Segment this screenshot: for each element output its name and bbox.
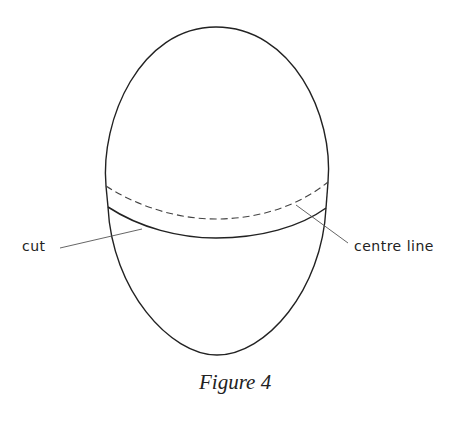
egg-diagram [0, 0, 476, 423]
centre-line [106, 182, 328, 219]
figure-caption: Figure 4 [199, 370, 271, 395]
cut-leader-line [60, 229, 142, 248]
egg-band-right [326, 182, 328, 208]
egg-band-left [106, 186, 108, 207]
centre-line-label: centre line [354, 238, 434, 254]
cut-label: cut [22, 238, 46, 254]
egg-upper-outline [105, 27, 328, 186]
cut-line [108, 207, 326, 238]
